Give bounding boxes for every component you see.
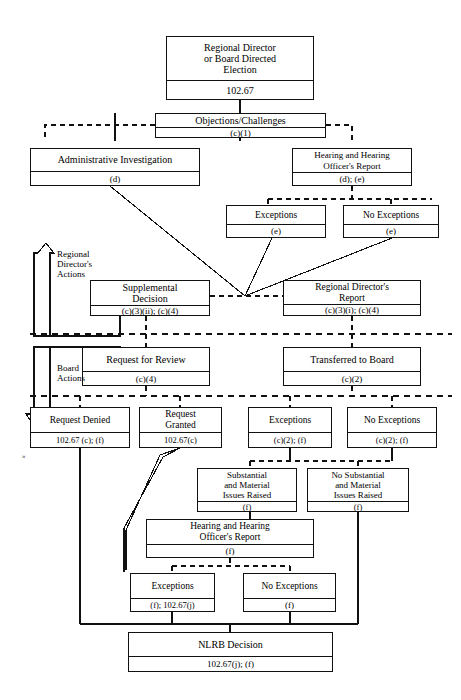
node-regional-director-report-cite: (c)(3)(i); (c)(4) xyxy=(284,304,420,315)
node-request-for-review-cite: (c)(4) xyxy=(83,371,209,385)
band-label-regional-director-actions: RegionalDirector'sActions xyxy=(57,249,92,279)
node-exceptions-3-title: Exceptions xyxy=(131,574,214,598)
node-exceptions-1[interactable]: Exceptions (e) xyxy=(226,205,326,238)
node-hearing-officer-report-2-title: Hearing and HearingOfficer's Report xyxy=(147,520,313,544)
node-transferred-to-board-cite: (c)(2) xyxy=(284,371,420,385)
node-hearing-officer-report-2-cite: (f) xyxy=(147,544,313,557)
stray-mark: » xyxy=(22,452,26,460)
edge-exceptions1-junction xyxy=(245,238,272,296)
node-admin-investigation-title: Administrative Investigation xyxy=(31,149,199,171)
node-no-substantial-issues[interactable]: No Substantialand MaterialIssues Raised … xyxy=(307,468,409,512)
edge-objections-hearing1 xyxy=(326,125,352,141)
node-no-exceptions-3[interactable]: No Exceptions (f) xyxy=(243,573,336,612)
node-nlrb-decision[interactable]: NLRB Decision 102.67(j); (f) xyxy=(128,632,333,672)
node-no-exceptions-3-cite: (f) xyxy=(244,598,335,611)
node-exceptions-2[interactable]: Exceptions (c)(2); (f) xyxy=(248,407,332,448)
node-nlrb-decision-cite: 102.67(j); (f) xyxy=(129,656,332,671)
node-substantial-issues[interactable]: Substantialand MaterialIssues Raised (f) xyxy=(197,468,297,512)
node-supplemental-decision-cite: (c)(3)(ii); (c)(4) xyxy=(91,305,209,316)
rd-actions-hook xyxy=(50,316,120,336)
node-admin-investigation[interactable]: Administrative Investigation (d) xyxy=(30,148,200,186)
node-regional-director-report-title: Regional Director'sReport xyxy=(284,281,420,304)
node-request-denied-title: Request Denied xyxy=(31,408,129,432)
node-hearing-officer-report-1-cite: (d); (e) xyxy=(293,172,411,185)
node-hearing-officer-report-1-title: Hearing and HearingOfficer's Report xyxy=(293,149,411,172)
node-no-exceptions-2[interactable]: No Exceptions (c)(2); (f) xyxy=(347,407,437,448)
node-no-exceptions-2-title: No Exceptions xyxy=(348,408,436,432)
node-no-substantial-issues-cite: (f) xyxy=(308,501,408,512)
node-request-for-review-title: Request for Review xyxy=(83,348,209,371)
node-exceptions-3[interactable]: Exceptions (f); 102.67(j) xyxy=(130,573,215,612)
node-supplemental-decision-title: SupplementalDecision xyxy=(91,281,209,305)
edge-objections-admin xyxy=(45,125,155,141)
node-request-for-review[interactable]: Request for Review (c)(4) xyxy=(82,347,210,386)
node-exceptions-1-title: Exceptions xyxy=(227,206,325,224)
node-election[interactable]: Regional Directoror Board DirectedElecti… xyxy=(166,36,314,100)
node-objections-cite: (c)(1) xyxy=(156,127,325,138)
node-request-granted-cite: 102.67(c) xyxy=(140,432,221,447)
node-objections[interactable]: Objections/Challenges (c)(1) xyxy=(155,113,326,138)
node-no-exceptions-1-cite: (e) xyxy=(344,224,438,237)
node-exceptions-2-cite: (c)(2); (f) xyxy=(249,432,331,447)
node-request-granted-title: RequestGranted xyxy=(140,408,221,432)
node-admin-investigation-cite: (d) xyxy=(31,171,199,185)
node-transferred-to-board-title: Transferred to Board xyxy=(284,348,420,371)
node-transferred-to-board[interactable]: Transferred to Board (c)(2) xyxy=(283,347,421,386)
node-request-denied[interactable]: Request Denied 102.67 (c); (f) xyxy=(30,407,130,448)
rd-actions-arrow-shape xyxy=(34,243,54,336)
band-label-board-actions: BoardActions xyxy=(57,363,85,383)
node-supplemental-decision[interactable]: SupplementalDecision (c)(3)(ii); (c)(4) xyxy=(90,280,210,316)
node-request-granted[interactable]: RequestGranted 102.67(c) xyxy=(139,407,222,448)
node-election-cite: 102.67 xyxy=(167,80,313,99)
node-substantial-issues-cite: (f) xyxy=(198,501,296,512)
node-hearing-officer-report-2[interactable]: Hearing and HearingOfficer's Report (f) xyxy=(146,519,314,558)
node-hearing-officer-report-1[interactable]: Hearing and HearingOfficer's Report (d);… xyxy=(292,148,412,186)
node-no-exceptions-3-title: No Exceptions xyxy=(244,574,335,598)
node-objections-title: Objections/Challenges xyxy=(156,114,325,127)
flowchart-canvas: Regional Directoror Board DirectedElecti… xyxy=(0,0,461,700)
node-request-denied-cite: 102.67 (c); (f) xyxy=(31,432,129,447)
node-nlrb-decision-title: NLRB Decision xyxy=(129,633,332,656)
node-exceptions-3-cite: (f); 102.67(j) xyxy=(131,598,214,611)
node-no-exceptions-2-cite: (c)(2); (f) xyxy=(348,432,436,447)
node-exceptions-1-cite: (e) xyxy=(227,224,325,237)
node-no-substantial-issues-title: No Substantialand MaterialIssues Raised xyxy=(308,469,408,501)
node-no-exceptions-1-title: No Exceptions xyxy=(344,206,438,224)
node-election-title: Regional Directoror Board DirectedElecti… xyxy=(167,37,313,80)
node-regional-director-report[interactable]: Regional Director'sReport (c)(3)(i); (c)… xyxy=(283,280,421,316)
node-no-exceptions-1[interactable]: No Exceptions (e) xyxy=(343,205,439,238)
node-substantial-issues-title: Substantialand MaterialIssues Raised xyxy=(198,469,296,501)
node-exceptions-2-title: Exceptions xyxy=(249,408,331,432)
